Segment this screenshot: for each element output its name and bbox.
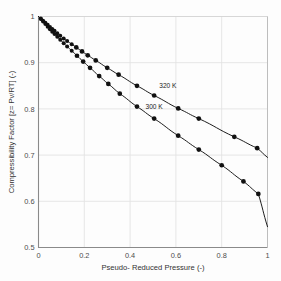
- data-point: [55, 35, 59, 39]
- data-point: [255, 146, 260, 151]
- chart-figure: 00.20.40.60.810.50.60.70.80.91 320 K300 …: [0, 0, 281, 281]
- data-point: [256, 192, 261, 197]
- y-tick-label: 0.7: [24, 151, 34, 160]
- data-point: [70, 49, 74, 53]
- x-tick-label: 0.8: [217, 251, 227, 260]
- data-point: [152, 93, 157, 98]
- data-point: [65, 39, 69, 43]
- data-point: [85, 53, 90, 58]
- x-tick-label: 0.4: [125, 251, 135, 260]
- data-point: [116, 72, 121, 77]
- data-point: [117, 91, 122, 96]
- data-point: [74, 45, 79, 50]
- y-tick-label: 0.9: [24, 58, 34, 67]
- data-point: [58, 38, 62, 42]
- compressibility-chart: 00.20.40.60.810.50.60.70.80.91 320 K300 …: [0, 0, 281, 281]
- data-point: [135, 83, 140, 88]
- x-tick-label: 0.6: [171, 251, 181, 260]
- data-point: [81, 59, 86, 64]
- y-tick-label: 0.5: [24, 243, 34, 252]
- data-point: [196, 147, 201, 152]
- x-tick-label: 0: [36, 251, 40, 260]
- y-tick-label: 0.6: [24, 197, 34, 206]
- data-point: [232, 135, 237, 140]
- x-axis-title: Pseudo- Reduced Pressure (-): [102, 263, 205, 272]
- data-point: [135, 104, 140, 109]
- data-point: [97, 74, 102, 79]
- data-point: [88, 65, 93, 70]
- data-point: [196, 116, 201, 121]
- data-point: [93, 58, 98, 63]
- series-annotation-300-k: 300 K: [146, 103, 164, 110]
- data-point: [75, 53, 80, 58]
- data-point: [176, 106, 181, 111]
- chart-background: [0, 0, 281, 281]
- data-point: [105, 65, 110, 70]
- data-point: [70, 42, 74, 46]
- y-axis-title: Compressibility Factor [z= Pv/RT] (-): [7, 70, 16, 193]
- y-tick-label: 0.8: [24, 105, 34, 114]
- x-tick-label: 1: [265, 251, 269, 260]
- data-point: [176, 133, 181, 138]
- series-annotation-320-k: 320 K: [159, 82, 177, 89]
- data-point: [241, 179, 246, 184]
- data-point: [219, 163, 224, 168]
- x-tick-label: 0.2: [79, 251, 89, 260]
- data-point: [62, 36, 66, 40]
- data-point: [80, 49, 85, 54]
- data-point: [106, 82, 111, 87]
- data-point: [152, 116, 157, 121]
- data-point: [65, 45, 69, 49]
- y-tick-label: 1: [30, 12, 34, 21]
- data-point: [62, 41, 66, 45]
